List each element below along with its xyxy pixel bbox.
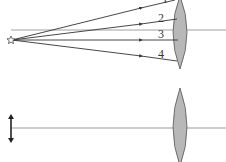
ray-1 [12, 0, 175, 40]
star-source-icon [7, 36, 15, 44]
ray-label-3: 3 [158, 27, 164, 41]
ray-label-1: 1 [162, 0, 168, 6]
rays [12, 0, 178, 61]
ray-4 [12, 40, 177, 61]
bottom-panel [8, 88, 226, 162]
ray-label-4: 4 [158, 47, 164, 61]
converging-lens [173, 0, 187, 69]
ray-label-2: 2 [158, 11, 164, 25]
optics-diagram: 1 2 3 4 [0, 0, 226, 162]
ray-2 [12, 19, 177, 40]
converging-lens [173, 88, 187, 162]
top-panel: 1 2 3 4 [7, 0, 226, 69]
